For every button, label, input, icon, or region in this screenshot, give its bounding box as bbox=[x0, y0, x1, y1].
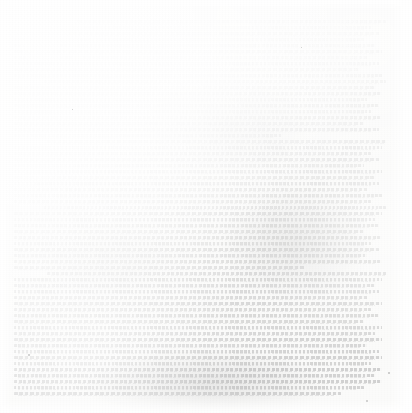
text-line-ink-secondary bbox=[18, 395, 334, 396]
text-line bbox=[14, 391, 386, 397]
scanned-document-page bbox=[0, 0, 412, 413]
text-body-block bbox=[14, 19, 386, 399]
